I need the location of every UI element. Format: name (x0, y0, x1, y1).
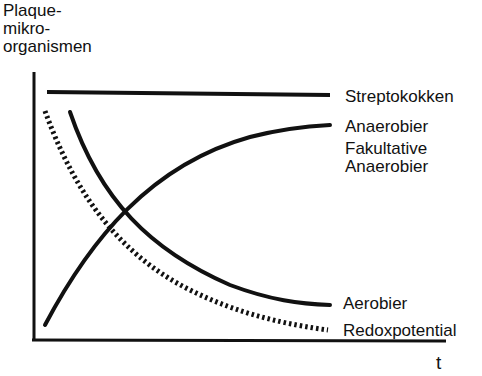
label-streptokokken: Streptokokken (345, 88, 454, 106)
x-axis-label: t (436, 354, 441, 372)
series-aerobier (70, 112, 330, 305)
label-fakultative: Fakultative (345, 140, 427, 158)
series-redoxpotential (45, 111, 328, 330)
series-streptokokken (47, 92, 330, 95)
chart-plot (0, 0, 482, 376)
label-redoxpotential: Redoxpotential (343, 322, 456, 340)
label-anaerobier: Anaerobier (345, 118, 428, 136)
label-fakultative-anaerobier: Anaerobier (345, 158, 428, 176)
label-aerobier: Aerobier (343, 295, 407, 313)
x-axis (32, 340, 446, 341)
